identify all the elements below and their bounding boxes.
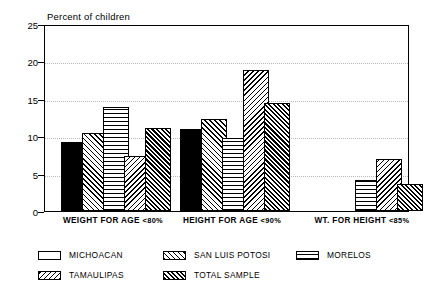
legend-label: TAMAULIPAS bbox=[69, 270, 124, 280]
legend-item-michoacan[interactable]: MICHOACAN bbox=[38, 250, 123, 260]
bar-total-sample-group-1 bbox=[145, 128, 171, 211]
bar-total-sample-group-3 bbox=[397, 184, 423, 211]
legend-label: SAN LUIS POTOSI bbox=[194, 250, 271, 260]
x-axis-label-3: WT. FOR HEIGHT <85% bbox=[292, 216, 432, 225]
legend-swatch-fwd-diagonal-icon bbox=[163, 251, 186, 260]
legend-swatch-checkerboard-icon bbox=[163, 271, 186, 280]
x-axis-label-text: HEIGHT FOR AGE bbox=[183, 216, 261, 225]
legend-item-morelos[interactable]: MORELOS bbox=[296, 250, 371, 260]
chart-title: Percent of children bbox=[47, 11, 130, 22]
y-tick-mark-5 bbox=[38, 175, 44, 176]
legend-item-total-sample[interactable]: TOTAL SAMPLE bbox=[163, 270, 260, 280]
legend-item-tamaulipas[interactable]: TAMAULIPAS bbox=[38, 270, 124, 280]
y-axis: 0510152025 bbox=[10, 25, 38, 212]
x-axis-label-text: WEIGHT FOR AGE bbox=[63, 216, 143, 225]
y-tick-label-5: 5 bbox=[14, 169, 38, 180]
y-tick-label-0: 0 bbox=[14, 207, 38, 218]
x-axis-label-text: WT. FOR HEIGHT bbox=[315, 216, 389, 225]
legend-label: TOTAL SAMPLE bbox=[194, 270, 260, 280]
y-tick-label-25: 25 bbox=[14, 20, 38, 31]
x-axis-label-threshold: <80% bbox=[143, 216, 164, 225]
bar-chart-figure: Percent of children 0510152025 WEIGHT FO… bbox=[0, 0, 432, 296]
y-tick-mark-10 bbox=[38, 137, 44, 138]
chart-legend: MICHOACANSAN LUIS POTOSIMORELOSTAMAULIPA… bbox=[38, 250, 398, 290]
y-tick-label-20: 20 bbox=[14, 57, 38, 68]
legend-label: MICHOACAN bbox=[69, 250, 123, 260]
y-tick-mark-25 bbox=[38, 25, 44, 26]
gridline-15 bbox=[45, 101, 408, 102]
bar-total-sample-group-2 bbox=[264, 103, 290, 211]
y-tick-label-10: 10 bbox=[14, 132, 38, 143]
x-axis-label-threshold: <85% bbox=[389, 216, 410, 225]
legend-swatch-grid-icon bbox=[296, 251, 319, 260]
legend-label: MORELOS bbox=[327, 250, 371, 260]
y-tick-mark-15 bbox=[38, 100, 44, 101]
legend-swatch-solid-icon bbox=[38, 251, 61, 260]
x-axis-label-threshold: <90% bbox=[261, 216, 282, 225]
x-axis-label-2: HEIGHT FOR AGE <90% bbox=[162, 216, 302, 225]
legend-swatch-back-diagonal-icon bbox=[38, 271, 61, 280]
gridline-20 bbox=[45, 63, 408, 64]
y-tick-label-15: 15 bbox=[14, 94, 38, 105]
plot-area bbox=[44, 25, 409, 212]
y-tick-mark-0 bbox=[38, 212, 44, 213]
legend-item-san-luis-potosi[interactable]: SAN LUIS POTOSI bbox=[163, 250, 271, 260]
y-tick-mark-20 bbox=[38, 62, 44, 63]
